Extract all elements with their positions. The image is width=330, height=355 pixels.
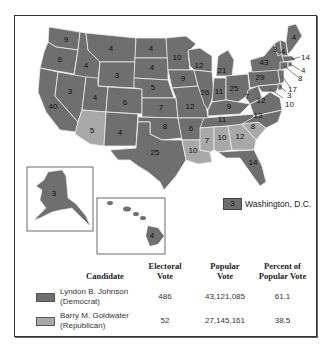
label-nm: 4 bbox=[118, 128, 123, 137]
dc-swatch: 3 bbox=[223, 198, 242, 210]
label-pa: 29 bbox=[256, 73, 265, 82]
electoral-vote: 52 bbox=[150, 316, 180, 325]
label-ut: 4 bbox=[93, 93, 98, 102]
label-nc: 13 bbox=[254, 111, 263, 120]
label-wa: 9 bbox=[64, 35, 69, 44]
label-oh: 25 bbox=[230, 84, 239, 93]
label-de: 3 bbox=[287, 91, 292, 100]
hawaii-inset bbox=[97, 198, 165, 254]
label-ga: 12 bbox=[236, 132, 245, 141]
label-ky: 9 bbox=[227, 102, 232, 111]
label-sc: 8 bbox=[251, 122, 256, 131]
state-ma bbox=[282, 56, 296, 62]
label-ma: 14 bbox=[301, 53, 310, 62]
candidate-name: Lyndon B. Johnson(Democrat) bbox=[60, 287, 128, 307]
label-nv: 3 bbox=[68, 87, 73, 96]
label-in: 11 bbox=[215, 87, 224, 96]
label-ia: 9 bbox=[181, 74, 186, 83]
label-mt: 4 bbox=[109, 44, 114, 53]
popular-vote: 27,145,161 bbox=[190, 316, 260, 325]
table-row-goldwater: Barry M. Goldwater(Republican) 52 27,145… bbox=[30, 311, 315, 333]
header-electoral: ElectoralVote bbox=[140, 261, 190, 281]
label-tn: 11 bbox=[218, 115, 227, 124]
label-ar: 6 bbox=[189, 124, 194, 133]
label-il: 26 bbox=[201, 88, 210, 97]
dc-legend: 3 Washington, D.C. bbox=[223, 198, 311, 210]
label-wi: 12 bbox=[195, 61, 204, 70]
label-wy: 3 bbox=[115, 71, 120, 80]
label-or: 6 bbox=[58, 55, 63, 64]
label-ak: 3 bbox=[52, 189, 57, 198]
label-az: 5 bbox=[90, 126, 95, 135]
percent-vote: 61.1 bbox=[265, 292, 300, 301]
label-md: 10 bbox=[285, 100, 294, 109]
label-tx: 25 bbox=[151, 148, 160, 157]
label-al: 10 bbox=[218, 133, 227, 142]
republican-swatch bbox=[36, 317, 55, 326]
label-ny: 43 bbox=[260, 58, 269, 67]
label-ok: 8 bbox=[163, 122, 168, 131]
label-mo: 12 bbox=[186, 102, 195, 111]
label-mn: 10 bbox=[173, 53, 182, 62]
label-mi: 21 bbox=[218, 66, 227, 75]
label-ne: 5 bbox=[151, 83, 156, 92]
label-vt: 3 bbox=[273, 45, 278, 54]
label-me: 4 bbox=[292, 33, 297, 42]
label-nd: 4 bbox=[149, 44, 154, 53]
label-ca: 40 bbox=[49, 102, 58, 111]
label-wv: 7 bbox=[245, 92, 250, 101]
percent-vote: 38.5 bbox=[265, 316, 300, 325]
label-ms: 7 bbox=[205, 136, 210, 145]
democrat-swatch bbox=[36, 293, 55, 302]
label-hi: 4 bbox=[150, 231, 155, 240]
electoral-vote: 486 bbox=[150, 292, 180, 301]
label-ct: 8 bbox=[298, 74, 303, 83]
label-id: 4 bbox=[84, 61, 89, 70]
state-fl bbox=[218, 150, 266, 186]
popular-vote: 43,121,085 bbox=[190, 292, 260, 301]
label-va: 12 bbox=[257, 96, 266, 105]
label-sd: 4 bbox=[150, 63, 155, 72]
header-popular: PopularVote bbox=[195, 261, 255, 281]
candidate-name: Barry M. Goldwater(Republican) bbox=[60, 311, 129, 331]
dc-label: Washington, D.C. bbox=[245, 199, 311, 209]
label-co: 6 bbox=[123, 98, 128, 107]
table-row-johnson: Lyndon B. Johnson(Democrat) 486 43,121,0… bbox=[30, 287, 315, 309]
label-la: 10 bbox=[189, 146, 198, 155]
label-nh: 4 bbox=[281, 47, 286, 56]
header-candidate: Candidate bbox=[70, 271, 140, 281]
header-percent: Percent ofPopular Vote bbox=[250, 261, 315, 281]
label-fl: 14 bbox=[249, 158, 258, 167]
label-ks: 7 bbox=[159, 103, 164, 112]
